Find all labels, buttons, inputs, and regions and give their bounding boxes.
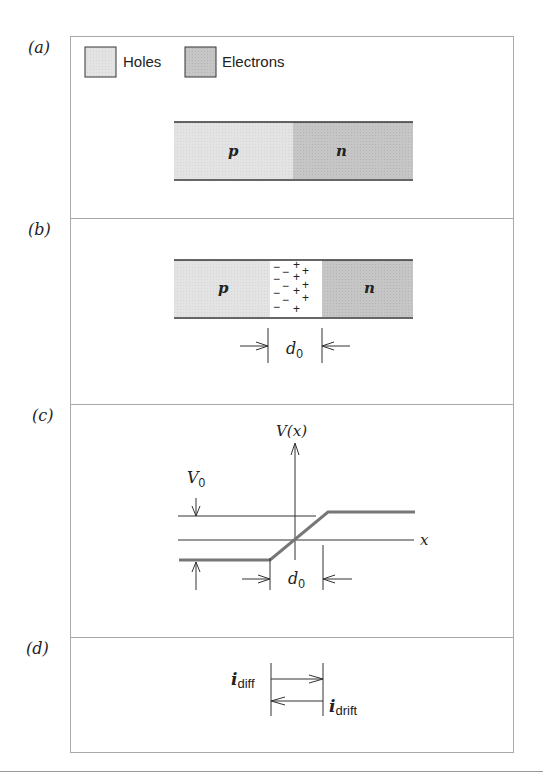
y-axis-label: V(x) — [276, 422, 307, 440]
svg-text:−: − — [282, 293, 289, 307]
svg-text:+: + — [293, 302, 300, 316]
legend-electrons-label: Electrons — [222, 53, 285, 70]
p-region-label-b: p — [218, 279, 229, 297]
v0-label: V0 — [187, 468, 206, 490]
svg-text:+: + — [302, 278, 309, 292]
svg-text:+: + — [302, 264, 309, 278]
svg-text:−: − — [273, 272, 280, 286]
i-diff-label: idiff — [231, 669, 255, 691]
legend-holes-label: Holes — [123, 53, 161, 70]
svg-text:+: + — [302, 291, 309, 305]
svg-text:+: + — [293, 270, 300, 284]
currents: idiff idrift — [231, 663, 358, 718]
svg-text:+: + — [293, 284, 300, 298]
svg-text:−: − — [282, 265, 289, 279]
n-region-label-a: n — [336, 142, 347, 160]
p-region-label-a: p — [228, 142, 239, 160]
junction-b: p n −−++ −+−+ −+−+ −+ d0 — [174, 258, 413, 363]
legend-electrons: Electrons — [185, 47, 285, 77]
svg-text:−: − — [273, 286, 280, 300]
d0-label-b: d0 — [286, 339, 303, 361]
x-axis-label: x — [420, 531, 429, 549]
svg-text:−: − — [273, 300, 280, 314]
potential-plot: V(x) x V0 d0 — [178, 422, 429, 591]
i-drift-label: idrift — [329, 696, 358, 718]
depletion-charges: −−++ −+−+ −+−+ −+ — [273, 258, 309, 316]
diagram-svg: Holes Electrons p n p n −−++ −+−+ −+−+ −… — [0, 0, 543, 780]
n-region-label-b: n — [364, 279, 375, 297]
legend-holes: Holes — [85, 47, 161, 77]
junction-a: p n — [174, 122, 413, 180]
svg-text:−: − — [282, 279, 289, 293]
d0-label-c: d0 — [288, 569, 305, 591]
